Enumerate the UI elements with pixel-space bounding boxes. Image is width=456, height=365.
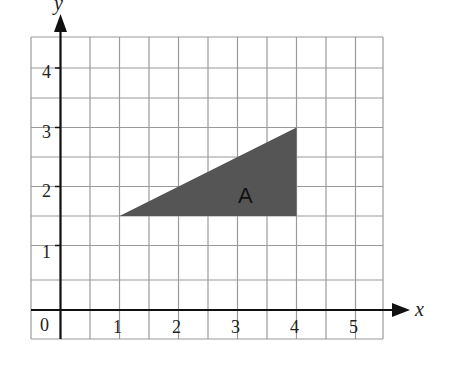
- x-tick-2: 2: [172, 317, 181, 337]
- shape-label-a: A: [238, 183, 253, 208]
- coordinate-plane: A y x 0 1 2 3 4 5 1 2 3 4: [0, 0, 456, 365]
- y-tick-2: 2: [42, 181, 51, 201]
- x-tick-3: 3: [231, 317, 240, 337]
- x-tick-4: 4: [290, 317, 299, 337]
- x-tick-5: 5: [349, 317, 358, 337]
- x-axis-label: x: [414, 298, 424, 320]
- y-axis-arrow-icon: [54, 14, 67, 32]
- y-axis-label: y: [52, 0, 63, 15]
- y-tick-3: 3: [42, 122, 51, 142]
- x-axis-arrow-icon: [392, 303, 410, 317]
- y-tick-1: 1: [42, 242, 51, 262]
- x-tick-1: 1: [113, 317, 122, 337]
- y-tick-4: 4: [42, 62, 51, 82]
- origin-label: 0: [40, 315, 49, 335]
